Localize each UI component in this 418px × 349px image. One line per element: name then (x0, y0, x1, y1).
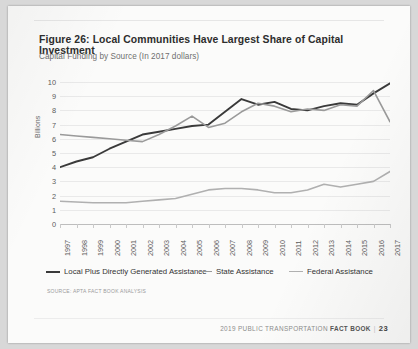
x-tick (324, 224, 325, 228)
legend-label: Federal Assistance (307, 267, 373, 276)
x-tick (93, 224, 94, 228)
y-tick-label: 6 (52, 134, 56, 143)
x-tick-label: 2010 (278, 240, 287, 256)
footer-book-title: FACT BOOK (330, 325, 371, 332)
x-tick-label: 2002 (146, 240, 155, 256)
x-tick (159, 224, 160, 228)
x-axis-ticks (60, 224, 391, 228)
page-number: 23 (379, 324, 388, 333)
x-tick (143, 224, 144, 228)
y-tick-label: 9 (52, 92, 56, 101)
x-tick (275, 224, 276, 228)
page-footer: 2019 PUBLIC TRANSPORTATION FACT BOOK|23 (220, 324, 388, 333)
x-tick-label: 2003 (162, 240, 171, 256)
legend-label: State Assistance (216, 267, 274, 276)
x-tick-label: 2011 (294, 241, 303, 256)
chart-plot-area (60, 82, 390, 224)
x-tick-label: 2015 (360, 240, 369, 256)
x-tick-label: 2014 (344, 240, 353, 256)
legend-swatch-icon (198, 271, 212, 273)
x-tick (374, 224, 375, 228)
x-tick-label: 2006 (212, 240, 221, 256)
series-line (60, 91, 390, 142)
series-line (60, 83, 390, 167)
footer-separator: | (374, 325, 376, 332)
x-tick-label: 2016 (377, 240, 386, 256)
y-tick-label: 8 (52, 106, 56, 115)
x-tick (209, 224, 210, 228)
x-tick (110, 224, 111, 228)
y-tick-label: 10 (48, 78, 56, 87)
x-tick-label: 2007 (228, 240, 237, 256)
x-tick (192, 224, 193, 228)
legend-swatch-icon (289, 271, 303, 273)
x-tick-label: 2009 (261, 240, 270, 256)
x-axis-tick-labels: 1997199819992000200120022003200420052006… (60, 230, 391, 260)
x-tick-label: 1999 (96, 240, 105, 256)
x-tick-label: 1997 (63, 240, 72, 256)
source-note: SOURCE: APTA FACT BOOK ANALYSIS (47, 288, 146, 294)
legend-item[interactable]: Local Plus Directly Generated Assistance (46, 267, 207, 276)
y-tick-label: 5 (52, 149, 56, 158)
x-tick (225, 224, 226, 228)
figure-subtitle: Capital Funding by Source (In 2017 dolla… (39, 52, 379, 61)
x-tick (60, 224, 61, 228)
chart-legend: Local Plus Directly Generated Assistance… (46, 267, 376, 279)
y-tick-label: 4 (52, 163, 56, 172)
y-axis-tick-labels: 012345678910 (38, 78, 56, 228)
legend-swatch-icon (46, 271, 60, 273)
x-tick (357, 224, 358, 228)
y-tick-label: 2 (52, 191, 56, 200)
x-tick-label: 2000 (113, 240, 122, 256)
document-page: Figure 26: Local Communities Have Larges… (8, 6, 410, 343)
x-tick-label: 1998 (80, 240, 89, 256)
x-tick (176, 224, 177, 228)
x-tick-label: 2001 (129, 240, 138, 256)
x-tick (242, 224, 243, 228)
x-tick (341, 224, 342, 228)
x-tick (308, 224, 309, 228)
x-tick-label: 2005 (195, 240, 204, 256)
y-tick-label: 0 (52, 220, 56, 229)
x-tick (390, 224, 391, 228)
x-tick (126, 224, 127, 228)
y-tick-label: 7 (52, 120, 56, 129)
x-tick-label: 2004 (179, 240, 188, 256)
legend-item[interactable]: Federal Assistance (289, 267, 373, 276)
legend-label: Local Plus Directly Generated Assistance (64, 267, 207, 276)
y-tick-label: 1 (52, 205, 56, 214)
x-tick (291, 224, 292, 228)
x-tick (258, 224, 259, 228)
series-line (60, 171, 390, 202)
x-tick (77, 224, 78, 228)
y-tick-label: 3 (52, 177, 56, 186)
x-tick-label: 2012 (311, 240, 320, 256)
legend-item[interactable]: State Assistance (198, 267, 274, 276)
x-tick-label: 2017 (393, 240, 402, 256)
header-rule (34, 20, 384, 21)
x-tick-label: 2008 (245, 240, 254, 256)
footer-rule (34, 318, 384, 319)
footer-publication: 2019 PUBLIC TRANSPORTATION (220, 325, 328, 332)
x-tick-label: 2013 (327, 240, 336, 256)
chart-series-svg (60, 82, 390, 224)
